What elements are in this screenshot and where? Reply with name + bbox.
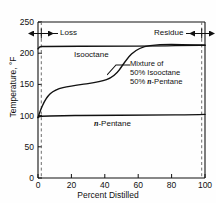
loss-label: Loss — [60, 29, 77, 37]
n-pentane-suffix: -Pentane — [98, 119, 130, 128]
x-axis-title: Percent Distilled — [0, 191, 216, 200]
isooctane-curve — [38, 45, 205, 49]
x-tick-20: 20 — [61, 181, 81, 190]
x-tick-80: 80 — [162, 181, 182, 190]
distillation-chart: 250 200 150 100 50 0 0 20 40 60 80 100 T… — [0, 0, 216, 203]
mixture-name-pentane: -Pentane — [152, 77, 183, 86]
mixture-name-isooctane: Isooctane — [147, 68, 180, 77]
y-tick-50: 50 — [8, 143, 34, 152]
mixture-label: Mixture of 50% Isooctane 50% n-Pentane — [130, 59, 182, 87]
y-axis-title: Temperature, °F — [8, 56, 18, 117]
n-pentane-label: n-Pentane — [94, 120, 131, 128]
mixture-pct-pentane: 50% — [130, 77, 145, 86]
x-tick-100: 100 — [195, 181, 215, 190]
x-axis-ticks — [38, 174, 205, 178]
mixture-label-line2: 50% Isooctane — [130, 68, 182, 77]
mixture-label-line1: Mixture of — [130, 59, 182, 68]
x-tick-40: 40 — [95, 181, 115, 190]
mixture-label-line3: 50% n-Pentane — [130, 77, 182, 86]
x-tick-60: 60 — [128, 181, 148, 190]
x-tick-0: 0 — [28, 181, 48, 190]
n-pentane-curve — [38, 114, 205, 117]
isooctane-label: Isooctane — [74, 51, 109, 59]
mixture-leader — [107, 62, 131, 76]
mixture-pct-isooctane: 50% — [130, 68, 145, 77]
y-axis-title-wrap: Temperature, °F — [2, 52, 20, 122]
y-tick-250: 250 — [8, 18, 34, 27]
residue-label: Residue — [154, 29, 183, 37]
